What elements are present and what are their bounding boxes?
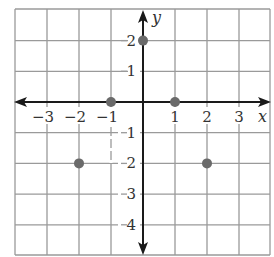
x-axis-label: x: [258, 107, 267, 126]
data-point: [138, 36, 148, 46]
y-tick-label: 3: [126, 185, 136, 203]
y-tick-label: 2: [126, 154, 136, 172]
data-point: [74, 158, 84, 168]
x-tick-label: −1: [96, 108, 118, 126]
data-point: [202, 158, 212, 168]
data-point: [106, 97, 116, 107]
x-tick-label: −2: [64, 108, 86, 126]
y-tick-label: 1: [126, 124, 136, 142]
x-tick-label: 2: [202, 108, 212, 126]
data-point: [170, 97, 180, 107]
y-tick-label: 1: [126, 62, 136, 80]
x-tick-label: 1: [170, 108, 180, 126]
x-tick-label: −3: [32, 108, 54, 126]
y-tick-label: 2: [126, 32, 136, 50]
y-tick-label: 4: [126, 216, 136, 234]
x-tick-label: 3: [234, 108, 244, 126]
coordinate-plane: −3−2−1123211234xy: [0, 0, 274, 257]
y-axis-label: y: [151, 8, 162, 27]
